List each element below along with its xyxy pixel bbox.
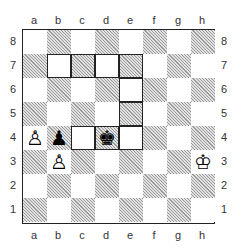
rank-label-4: 4	[6, 131, 20, 143]
square-d8	[95, 30, 119, 54]
file-label-f: f	[142, 14, 166, 26]
file-label-e: e	[118, 229, 142, 241]
square-c1	[71, 198, 95, 222]
square-f3	[143, 150, 167, 174]
square-f4	[143, 126, 167, 150]
square-b5	[47, 102, 71, 126]
file-label-f: f	[142, 229, 166, 241]
square-g7	[167, 54, 191, 78]
square-a3	[23, 150, 47, 174]
square-c7	[71, 54, 95, 78]
square-f1	[143, 198, 167, 222]
rank-label-1: 1	[217, 203, 231, 215]
square-g8	[167, 30, 191, 54]
square-a1	[23, 198, 47, 222]
square-a5	[23, 102, 47, 126]
file-label-c: c	[70, 229, 94, 241]
white-pawn-icon: ♙	[23, 126, 47, 150]
rank-label-8: 8	[6, 35, 20, 47]
file-label-b: b	[46, 229, 70, 241]
file-label-h: h	[190, 14, 214, 26]
square-c8	[71, 30, 95, 54]
square-h2	[191, 174, 215, 198]
square-a7	[23, 54, 47, 78]
square-d6	[95, 78, 119, 102]
square-d5	[95, 102, 119, 126]
square-b2	[47, 174, 71, 198]
square-b7	[47, 54, 71, 78]
square-f8	[143, 30, 167, 54]
square-e3	[119, 150, 143, 174]
square-e7	[119, 54, 143, 78]
square-f6	[143, 78, 167, 102]
square-d2	[95, 174, 119, 198]
black-pawn-icon: ♟	[47, 126, 71, 150]
rank-label-5: 5	[6, 107, 20, 119]
file-label-a: a	[22, 14, 46, 26]
square-h6	[191, 78, 215, 102]
file-label-c: c	[70, 14, 94, 26]
square-e2	[119, 174, 143, 198]
square-b1	[47, 198, 71, 222]
square-c2	[71, 174, 95, 198]
file-label-d: d	[94, 229, 118, 241]
file-label-e: e	[118, 14, 142, 26]
square-f5	[143, 102, 167, 126]
rank-label-1: 1	[6, 203, 20, 215]
square-f2	[143, 174, 167, 198]
square-c4	[71, 126, 95, 150]
rank-label-8: 8	[217, 35, 231, 47]
rank-label-2: 2	[217, 179, 231, 191]
square-h5	[191, 102, 215, 126]
square-d1	[95, 198, 119, 222]
square-g2	[167, 174, 191, 198]
white-king-icon: ♔	[191, 150, 215, 174]
square-b6	[47, 78, 71, 102]
square-e8	[119, 30, 143, 54]
square-c5	[71, 102, 95, 126]
square-a8	[23, 30, 47, 54]
square-g6	[167, 78, 191, 102]
rank-label-7: 7	[217, 59, 231, 71]
square-e5	[119, 102, 143, 126]
rank-label-6: 6	[217, 83, 231, 95]
rank-label-3: 3	[217, 155, 231, 167]
square-d3	[95, 150, 119, 174]
square-c6	[71, 78, 95, 102]
rank-label-7: 7	[6, 59, 20, 71]
file-label-h: h	[190, 229, 214, 241]
square-h8	[191, 30, 215, 54]
file-label-d: d	[94, 14, 118, 26]
square-d7	[95, 54, 119, 78]
rank-label-2: 2	[6, 179, 20, 191]
square-h1	[191, 198, 215, 222]
square-e1	[119, 198, 143, 222]
rank-label-6: 6	[6, 83, 20, 95]
square-c3	[71, 150, 95, 174]
chess-board: ♙♟♚♙♔	[22, 29, 215, 224]
file-label-g: g	[166, 14, 190, 26]
file-label-b: b	[46, 14, 70, 26]
square-g5	[167, 102, 191, 126]
square-g3	[167, 150, 191, 174]
square-g1	[167, 198, 191, 222]
chess-diagram: ♙♟♚♙♔ aabbccddeeffgghh8877665544332211	[0, 0, 238, 251]
square-f7	[143, 54, 167, 78]
square-a6	[23, 78, 47, 102]
white-pawn-icon: ♙	[47, 150, 71, 174]
square-h7	[191, 54, 215, 78]
rank-label-4: 4	[217, 131, 231, 143]
file-label-a: a	[22, 229, 46, 241]
square-e6	[119, 78, 143, 102]
rank-label-3: 3	[6, 155, 20, 167]
square-h4	[191, 126, 215, 150]
square-b8	[47, 30, 71, 54]
rank-label-5: 5	[217, 107, 231, 119]
black-king-icon: ♚	[95, 126, 119, 150]
square-a2	[23, 174, 47, 198]
square-g4	[167, 126, 191, 150]
square-e4	[119, 126, 143, 150]
file-label-g: g	[166, 229, 190, 241]
